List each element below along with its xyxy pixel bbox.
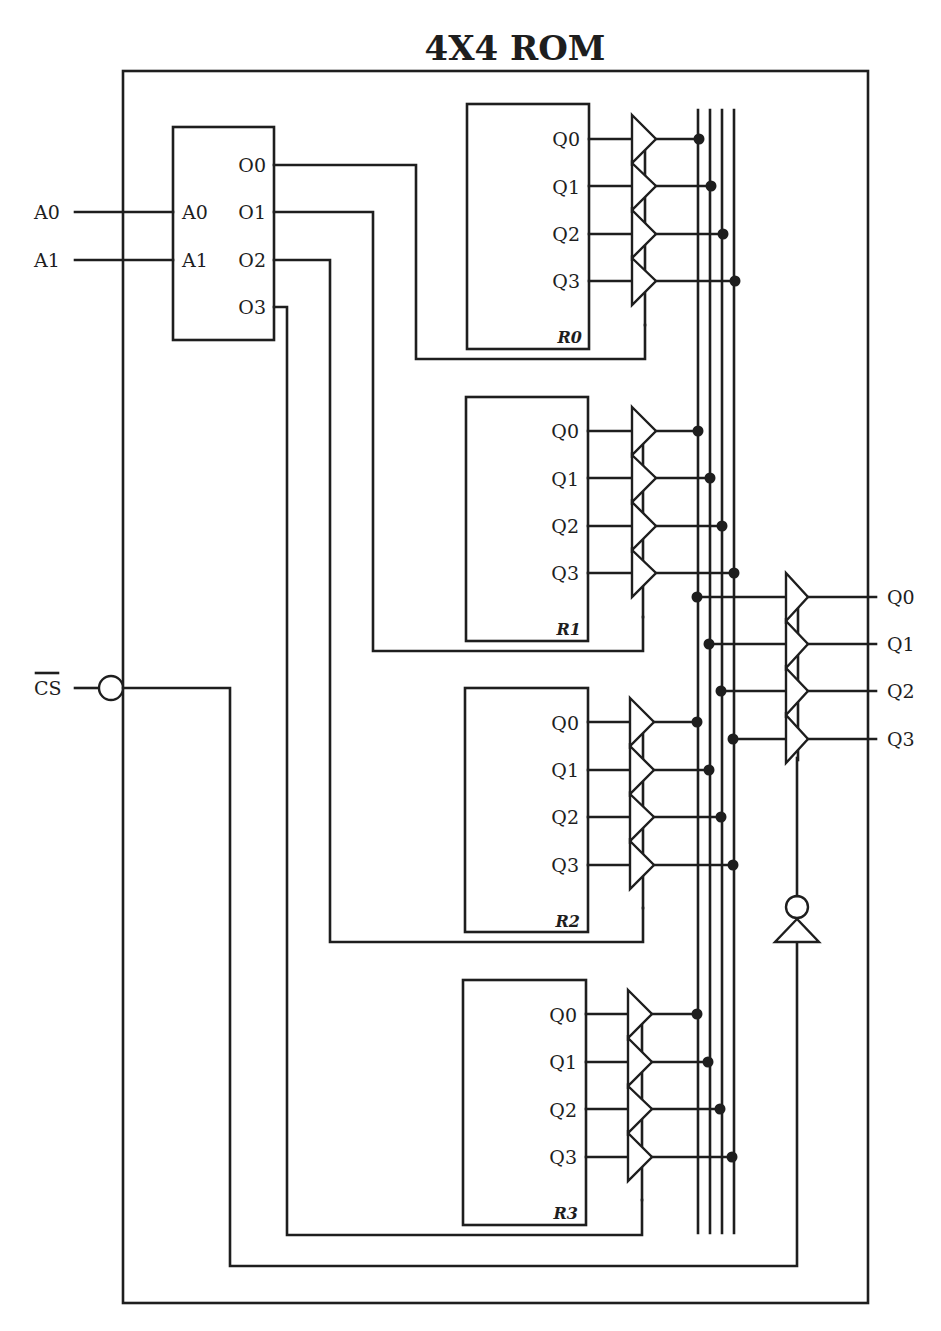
input-label-a1: A1 (33, 249, 60, 271)
junction-dot (703, 1057, 714, 1068)
junction-dot (718, 229, 729, 240)
junction-dot (706, 181, 717, 192)
junction-dot (730, 276, 741, 287)
register-output-label: Q2 (551, 806, 579, 828)
address-inputs: A0 A1 (33, 201, 173, 271)
junction-dot (694, 134, 705, 145)
tristate-buffer (628, 1038, 652, 1086)
register-r0: R0 Q0 Q1 Q2 Q3 (467, 104, 741, 349)
junction-dot (715, 1104, 726, 1115)
register-output-label: Q3 (551, 854, 579, 876)
chip-select: CS (34, 673, 819, 1266)
register-r3: R3 Q0 Q1 Q2 Q3 (463, 980, 738, 1225)
tristate-buffer (628, 1133, 652, 1181)
register-name: R3 (553, 1204, 578, 1223)
junction-dot (716, 686, 727, 697)
register-output-label: Q1 (551, 759, 579, 781)
junction-dot (692, 1009, 703, 1020)
decoder-output-o1: O1 (238, 201, 266, 223)
junction-dot (704, 639, 715, 650)
register-output-label: Q2 (549, 1099, 577, 1121)
register-output-label: Q0 (551, 420, 579, 442)
decoder-input-a1: A1 (181, 249, 208, 271)
junction-dot (727, 1152, 738, 1163)
chip-select-label: CS (34, 677, 62, 699)
register-output-label: Q3 (552, 270, 580, 292)
junction-dot (705, 473, 716, 484)
output-label-q2: Q2 (887, 680, 915, 702)
junction-dot (704, 765, 715, 776)
register-output-label: Q1 (549, 1051, 577, 1073)
register-output-label: Q2 (551, 515, 579, 537)
register-output-label: Q0 (551, 712, 579, 734)
wire-cs-to-output-enable (123, 688, 797, 1266)
input-label-a0: A0 (33, 201, 60, 223)
register-output-label: Q0 (552, 128, 580, 150)
register-output-label: Q3 (549, 1146, 577, 1168)
junction-dot (716, 812, 727, 823)
register-output-label: Q0 (549, 1004, 577, 1026)
register-name: R2 (555, 912, 580, 931)
output-label-q3: Q3 (887, 728, 915, 750)
register-output-label: Q3 (551, 562, 579, 584)
output-buffers: Q0 Q1 Q2 Q3 (692, 573, 915, 763)
register-output-label: Q2 (552, 223, 580, 245)
decoder-output-o0: O0 (238, 154, 266, 176)
junction-dot (729, 568, 740, 579)
tristate-buffer (628, 1086, 652, 1133)
register-output-label: Q1 (551, 468, 579, 490)
junction-dot (728, 734, 739, 745)
junction-dot (717, 521, 728, 532)
diagram-title: 4X4 ROM (424, 28, 605, 68)
junction-dot (692, 717, 703, 728)
rom-circuit-diagram: 4X4 ROM A0 A1 O0 O1 O2 O3 A0 A1 CS (0, 0, 941, 1331)
junction-dot (728, 860, 739, 871)
tristate-buffer (628, 990, 652, 1038)
register-name: R0 (557, 328, 582, 347)
output-label-q1: Q1 (887, 633, 915, 655)
address-decoder: A0 A1 O0 O1 O2 O3 (173, 127, 274, 340)
cs-inverter-bubble (99, 676, 123, 700)
register-name: R1 (556, 620, 581, 639)
output-enable-bubble (786, 896, 808, 918)
output-enable-inverter (775, 919, 819, 942)
register-output-label: Q1 (552, 176, 580, 198)
junction-dot (692, 592, 703, 603)
decoder-input-a0: A0 (181, 201, 208, 223)
decoder-output-o3: O3 (238, 296, 266, 318)
output-label-q0: Q0 (887, 586, 915, 608)
decoder-output-o2: O2 (238, 249, 266, 271)
junction-dot (693, 426, 704, 437)
